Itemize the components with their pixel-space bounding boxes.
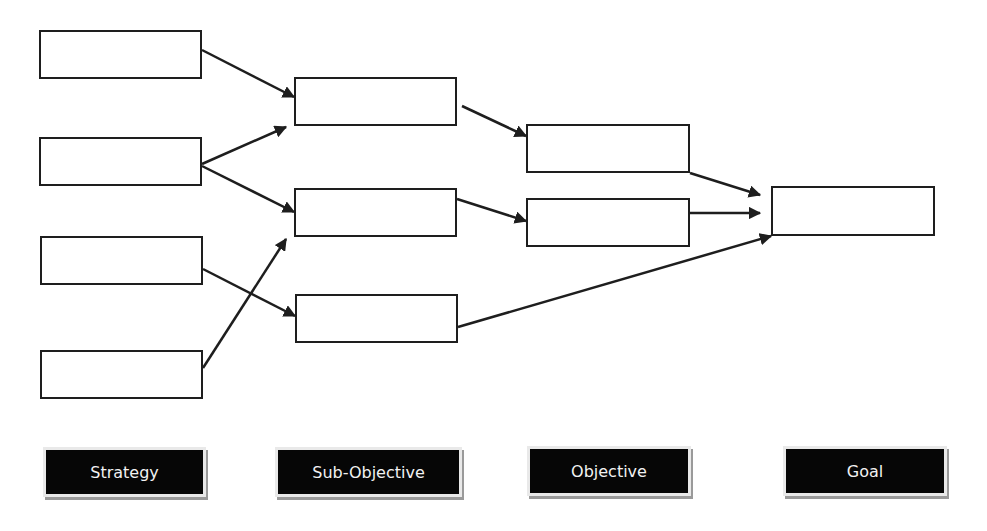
label-sub-objective: Sub-Objective	[275, 447, 462, 497]
arrow-s2-to-so1	[202, 127, 286, 164]
label-strategy: Strategy	[43, 447, 206, 497]
arrow-so1-to-o1	[462, 106, 526, 136]
label-goal: Goal	[783, 446, 947, 496]
goal-box	[771, 186, 935, 236]
arrow-s3-to-so3	[203, 269, 295, 316]
arrow-s2-to-so2	[202, 166, 294, 212]
strategy-box	[40, 236, 203, 285]
strategy-box	[39, 30, 202, 79]
label-objective: Objective	[527, 446, 691, 496]
sub-objective-box	[294, 77, 457, 126]
objective-box	[526, 198, 690, 247]
strategy-box	[40, 350, 203, 399]
arrow-s1-to-so1	[202, 50, 294, 97]
strategy-box	[39, 137, 202, 186]
arrow-so3-to-g1	[458, 236, 771, 327]
arrow-o1-to-g1	[690, 173, 760, 195]
strategy-goal-diagram: StrategySub-ObjectiveObjectiveGoal	[0, 0, 987, 531]
sub-objective-box	[294, 188, 457, 237]
sub-objective-box	[295, 294, 458, 343]
arrow-s4-to-so2	[203, 239, 286, 368]
arrow-so2-to-o2	[457, 199, 526, 221]
objective-box	[526, 124, 690, 173]
